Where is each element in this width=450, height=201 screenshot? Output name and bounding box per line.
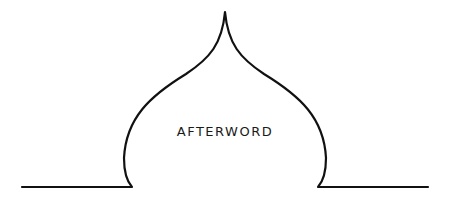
dome-outline (22, 12, 428, 187)
afterword-heading: AFTERWORD (0, 124, 450, 139)
onion-dome-ornament (0, 0, 450, 201)
